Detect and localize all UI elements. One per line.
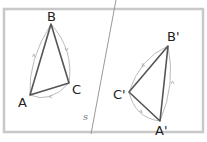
- reflected-triangle: B' C' A': [113, 29, 180, 138]
- vertex-label-b-prime: B': [167, 29, 180, 44]
- mirror-line-label: s: [83, 111, 88, 122]
- reflection-diagram: s B C A B' C' A': [0, 0, 207, 142]
- original-triangle: B C A: [18, 9, 81, 110]
- triangle-abc: [30, 24, 69, 95]
- diagram-frame: [4, 9, 203, 132]
- arrow-head-icon: [32, 54, 35, 58]
- vertex-label-b: B: [47, 9, 56, 24]
- arrow-head-icon: [171, 81, 174, 84]
- vertex-label-c-prime: C': [113, 87, 126, 102]
- vertex-label-a: A: [18, 95, 27, 110]
- vertex-label-a-prime: A': [155, 123, 167, 138]
- triangle-abc-prime: [129, 46, 168, 121]
- vertex-label-c: C: [72, 82, 81, 97]
- mirror-line: [91, 0, 116, 134]
